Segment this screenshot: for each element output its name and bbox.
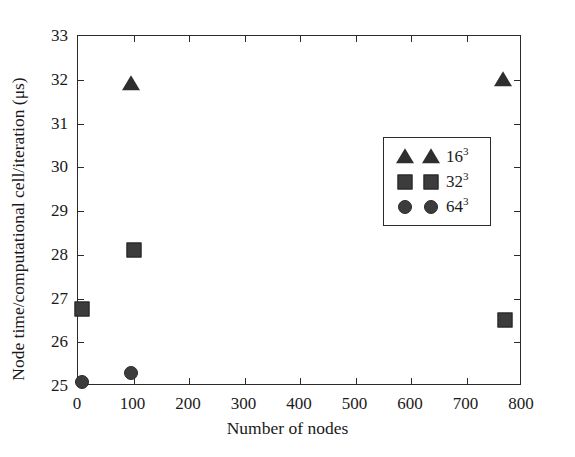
legend-label: 323: [446, 173, 469, 190]
legend-marker-triangle-icon: [392, 147, 418, 167]
y-axis-tick-right: [514, 342, 520, 343]
x-axis-tick-label: 700: [453, 395, 479, 412]
y-axis-tick: [78, 342, 84, 343]
y-axis-tick-right: [514, 299, 520, 300]
triangle-icon: [396, 148, 414, 163]
circle-icon: [398, 200, 412, 214]
x-axis-tick: [300, 378, 301, 384]
y-axis-tick-right: [514, 80, 520, 81]
x-axis-tick-label: 0: [73, 395, 82, 412]
x-axis-tick: [189, 378, 190, 384]
y-axis-tick: [78, 211, 84, 212]
legend-marker-triangle-icon: [418, 147, 444, 167]
y-axis-tick: [78, 255, 84, 256]
y-axis-label-container: Node time/computational cell/iteration (…: [0, 0, 36, 457]
y-axis-tick-right: [514, 167, 520, 168]
x-axis-tick-top: [189, 36, 190, 42]
legend-marker-square-icon: [418, 172, 444, 192]
y-axis-tick-label: 28: [34, 245, 68, 262]
square-icon: [424, 174, 439, 189]
scatter-chart-figure: Node time/computational cell/iteration (…: [0, 0, 575, 457]
data-point-square: [126, 243, 141, 258]
legend-item-64[interactable]: 643: [384, 194, 490, 219]
x-axis-tick-label: 200: [175, 395, 201, 412]
y-axis-tick-label: 27: [34, 289, 68, 306]
x-axis-tick-label: 800: [508, 395, 534, 412]
square-icon: [398, 174, 413, 189]
y-axis-tick-label: 31: [34, 114, 68, 131]
x-axis-tick-label: 100: [120, 395, 146, 412]
legend-marker-circle-icon: [418, 197, 444, 217]
x-axis-tick-label: 500: [342, 395, 368, 412]
data-point-square: [498, 313, 513, 328]
y-axis-tick-label: 25: [34, 377, 68, 394]
x-axis-tick-top: [300, 36, 301, 42]
x-axis-label: Number of nodes: [0, 418, 575, 439]
chart-legend: 163323643: [383, 137, 491, 226]
y-axis-tick: [78, 80, 84, 81]
y-axis-tick-right: [514, 124, 520, 125]
legend-item-32[interactable]: 323: [384, 169, 490, 194]
data-point-triangle: [122, 75, 140, 90]
y-axis-label: Node time/computational cell/iteration (…: [8, 77, 29, 380]
y-axis-tick-label: 29: [34, 202, 68, 219]
y-axis-tick-right: [514, 255, 520, 256]
x-axis-tick-top: [467, 36, 468, 42]
circle-icon: [424, 200, 438, 214]
legend-label: 643: [446, 198, 469, 215]
data-point-square: [75, 302, 90, 317]
triangle-icon: [422, 148, 440, 163]
data-point-circle: [124, 366, 138, 380]
legend-marker-circle-icon: [392, 197, 418, 217]
x-axis-tick: [467, 378, 468, 384]
x-axis-tick-label: 600: [397, 395, 423, 412]
x-axis-tick-label: 400: [286, 395, 312, 412]
x-axis-tick-top: [411, 36, 412, 42]
y-axis-tick-right: [514, 211, 520, 212]
y-axis-tick: [78, 124, 84, 125]
y-axis-tick-label: 30: [34, 158, 68, 175]
x-axis-tick: [411, 378, 412, 384]
legend-label: 163: [446, 148, 469, 165]
x-axis-tick: [356, 378, 357, 384]
y-axis-tick-label: 26: [34, 333, 68, 350]
x-axis-tick-top: [356, 36, 357, 42]
data-point-circle: [75, 375, 89, 389]
legend-item-16[interactable]: 163: [384, 144, 490, 169]
x-axis-tick-label: 300: [231, 395, 257, 412]
x-axis-tick-top: [134, 36, 135, 42]
y-axis-tick: [78, 299, 84, 300]
x-axis-tick-top: [245, 36, 246, 42]
y-axis-tick: [78, 167, 84, 168]
x-axis-tick: [245, 378, 246, 384]
y-axis-tick-label: 33: [34, 27, 68, 44]
y-axis-tick-label: 32: [34, 70, 68, 87]
data-point-triangle: [494, 71, 512, 86]
legend-marker-square-icon: [392, 172, 418, 192]
